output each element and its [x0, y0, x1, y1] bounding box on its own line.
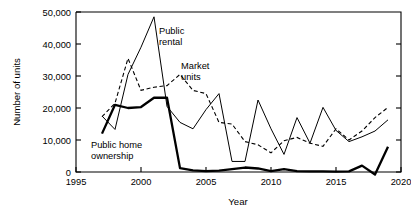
x-tick-label-2005: 2005 [196, 177, 217, 187]
public-rental-label-line2: rental [159, 37, 182, 47]
data-series-group [102, 17, 388, 175]
y-tick-label-0: 0 [66, 168, 71, 178]
x-tick-label-2000: 2000 [131, 177, 152, 187]
market-units-label-line2: units [181, 72, 201, 82]
x-tick-label-2015: 2015 [326, 177, 347, 187]
public-rental-label-line1: Public [159, 26, 185, 36]
x-axis-tick-labels: 1995 2000 2005 2010 2015 2020 [66, 177, 411, 187]
chart-figure: 0 10,000 20,000 30,000 40,000 50,000 199… [0, 0, 411, 212]
x-axis-title: Year [228, 196, 248, 207]
x-tick-label-2020: 2020 [391, 177, 411, 187]
public-home-label-line2: ownership [91, 151, 133, 161]
y-tick-label-40000: 40,000 [43, 40, 71, 50]
y-tick-label-30000: 30,000 [43, 72, 71, 82]
market-units-label-line1: Market [181, 61, 210, 71]
y-axis-tick-labels: 0 10,000 20,000 30,000 40,000 50,000 [43, 8, 71, 178]
y-tick-label-20000: 20,000 [43, 104, 71, 114]
x-tick-label-1995: 1995 [66, 177, 87, 187]
y-axis-title: Number of units [11, 58, 22, 126]
chart-annotations: Public rental Market units Public home o… [91, 26, 210, 161]
series-public-rental [102, 17, 388, 162]
public-home-label-line1: Public home [91, 140, 142, 150]
line-chart: 0 10,000 20,000 30,000 40,000 50,000 199… [0, 0, 411, 212]
y-tick-label-10000: 10,000 [43, 136, 71, 146]
x-tick-label-2010: 2010 [261, 177, 282, 187]
y-tick-label-50000: 50,000 [43, 8, 71, 18]
